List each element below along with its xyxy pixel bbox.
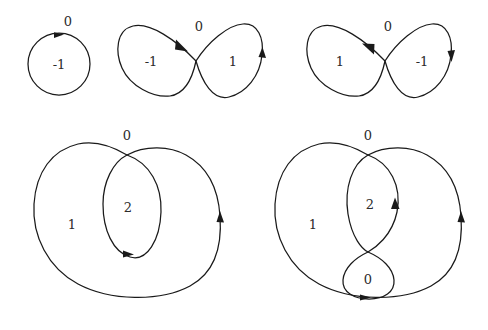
direction-arrow-icon — [175, 40, 188, 52]
direction-arrow-icon — [259, 47, 267, 58]
direction-arrow-icon — [458, 211, 466, 223]
label-region-one: 1 — [309, 217, 317, 232]
diagram-loop-with-figure-eight: 0 1 2 0 — [275, 128, 465, 301]
label-outer-region: 0 — [364, 128, 372, 143]
label-region-two: 2 — [124, 200, 132, 215]
label-region-one: 1 — [68, 217, 76, 232]
label-outer-region: 0 — [384, 19, 392, 34]
label-outer-region: 0 — [195, 19, 203, 34]
label-outer-region: 0 — [123, 128, 131, 143]
outer-curve — [34, 143, 221, 298]
label-region-two: 2 — [366, 197, 374, 212]
winding-number-diagram-figure: 0 -1 0 -1 1 0 1 -1 0 1 — [0, 0, 488, 330]
diagram-circle-clockwise: 0 -1 — [28, 14, 90, 96]
label-region-zero: 0 — [364, 272, 372, 287]
label-inner-region: -1 — [53, 57, 66, 72]
label-right-lobe-region: -1 — [416, 54, 429, 69]
diagram-figure-eight-right-negative: 0 1 -1 — [307, 19, 455, 98]
label-left-lobe-region: 1 — [336, 54, 344, 69]
direction-arrow-icon — [448, 50, 456, 62]
direction-arrow-icon — [217, 211, 225, 223]
direction-arrow-icon — [362, 44, 375, 55]
left-lobe-curve — [307, 25, 385, 96]
diagram-figure-eight-left-negative: 0 -1 1 — [118, 19, 266, 98]
diagram-loop-in-loop: 0 1 2 — [34, 128, 224, 298]
label-outer-region: 0 — [64, 14, 72, 29]
label-right-lobe-region: 1 — [229, 54, 237, 69]
label-left-lobe-region: -1 — [145, 54, 158, 69]
